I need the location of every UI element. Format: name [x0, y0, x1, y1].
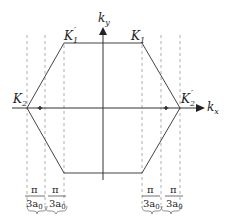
vertex-label-k2-prime: K2′: [180, 89, 195, 108]
svg-text:3a0: 3a0: [49, 198, 66, 211]
fraction-1: π 3a0: [25, 184, 45, 211]
vertex-label-k1: K1: [130, 29, 145, 45]
kx-label: kx: [207, 100, 219, 116]
svg-text:3a0: 3a0: [143, 198, 160, 211]
vertex-label-k2: K2: [12, 92, 27, 108]
fraction-2: π 3a0: [48, 184, 66, 211]
ky-arrowhead-icon: [99, 27, 107, 35]
svg-text:π: π: [31, 184, 38, 195]
svg-text:π: π: [147, 184, 154, 195]
ky-label: ky: [98, 11, 110, 27]
axes: [12, 30, 198, 180]
brillouin-zone-diagram: ky kx K1′ K1 K2 K2′ π 3a0 π 3a0 π 3a0 π: [0, 0, 228, 220]
vertex-label-k1-prime: K1′: [63, 26, 78, 45]
svg-text:3a0: 3a0: [26, 198, 43, 211]
svg-text:π: π: [52, 184, 59, 195]
kx-arrowhead-icon: [196, 104, 205, 112]
svg-text:π: π: [170, 184, 177, 195]
fraction-3: π 3a0: [142, 184, 160, 211]
